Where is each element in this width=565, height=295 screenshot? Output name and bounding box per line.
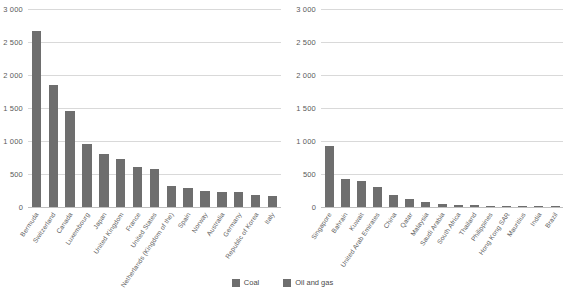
bar-slot (28, 9, 45, 207)
bar-thailand (470, 205, 479, 207)
bar-singapore (325, 146, 334, 207)
category-label-spain: Spain (176, 211, 192, 229)
bar-slot (418, 9, 434, 207)
coal-plot-area: 3 0002 5002 0001 5001 0005000 (28, 9, 281, 207)
bar-slot (95, 9, 112, 207)
legend-item[interactable]: Coal (232, 278, 259, 287)
category-label-singapore: Singapore (310, 211, 333, 241)
bar-spain (183, 188, 192, 207)
bar-slot (180, 9, 197, 207)
bar-slot (129, 9, 146, 207)
category-label-slot: Spain (180, 209, 197, 275)
bar-slot (247, 9, 264, 207)
bar-south-africa (454, 205, 463, 207)
coal-category-labels: BermudaSwitzerlandCanadaLuxembourgJapanU… (28, 209, 281, 275)
category-label-india: India (529, 211, 543, 227)
category-label-slot: Italy (264, 209, 281, 275)
oil-and-gas-plot-area: 3 0002 5002 0001 5001 0005000 (321, 9, 563, 207)
category-label-slot: Singapore (321, 209, 337, 275)
bar-philippines (486, 206, 495, 207)
bar-slot (386, 9, 402, 207)
legend-label: Oil and gas (295, 278, 333, 287)
oil-and-gas-y-tick-label: 1 000 (296, 136, 316, 145)
bar-switzerland (49, 85, 58, 207)
bar-slot (146, 9, 163, 207)
bar-slot (62, 9, 79, 207)
legend-label: Coal (244, 278, 259, 287)
category-label-slot: Qatar (402, 209, 418, 275)
category-label-slot: India (531, 209, 547, 275)
category-label-slot: Luxembourg (79, 209, 96, 275)
bar-brazil (551, 206, 560, 207)
bar-hong-kong-sar (502, 206, 511, 207)
bar-slot (402, 9, 418, 207)
bar-france (133, 167, 142, 207)
category-label-italy: Italy (263, 211, 276, 225)
bar-united-states (150, 169, 159, 207)
coal-gridline-0: 0 (28, 207, 281, 208)
bar-slot (353, 9, 369, 207)
bar-slot (321, 9, 337, 207)
bar-germany (234, 192, 243, 207)
category-label-slot: Switzerland (45, 209, 62, 275)
coal-chart-panel: 3 0002 5002 0001 5001 0005000 BermudaSwi… (0, 0, 285, 275)
bar-kuwait (357, 181, 366, 207)
category-label-slot: China (386, 209, 402, 275)
coal-y-tick-label: 2 000 (3, 70, 23, 79)
coal-y-tick-label: 500 (10, 170, 23, 179)
bar-netherlands-kingdom-of-the (167, 186, 176, 207)
bar-mauritius (518, 206, 527, 207)
oil-and-gas-y-tick-label: 500 (303, 170, 316, 179)
bar-slot (434, 9, 450, 207)
coal-swatch (232, 279, 240, 287)
bar-slot (482, 9, 498, 207)
legend-item[interactable]: Oil and gas (283, 278, 333, 287)
category-label-slot: Norway (197, 209, 214, 275)
bar-australia (217, 192, 226, 208)
bar-slot (213, 9, 230, 207)
bar-united-arab-emirates (373, 187, 382, 207)
bar-slot (112, 9, 129, 207)
bar-slot (450, 9, 466, 207)
category-label-slot: South Africa (450, 209, 466, 275)
category-label-slot: Republic of Korea (247, 209, 264, 275)
bar-slot (369, 9, 385, 207)
category-label-slot: Australia (213, 209, 230, 275)
coal-y-tick-label: 3 000 (3, 5, 23, 14)
category-label-slot: United Arab Emirates (369, 209, 385, 275)
oil-and-gas-y-tick-label: 3 000 (296, 5, 316, 14)
oil-and-gas-swatch (283, 279, 291, 287)
bar-slot (466, 9, 482, 207)
bar-slot (531, 9, 547, 207)
oil-and-gas-y-tick-label: 0 (312, 203, 316, 212)
oil-and-gas-category-labels: SingaporeBahrainKuwaitUnited Arab Emirat… (321, 209, 563, 275)
category-label-slot: Hong Kong SAR (499, 209, 515, 275)
bar-china (389, 195, 398, 207)
coal-y-tick-label: 1 500 (3, 104, 23, 113)
bar-luxembourg (82, 144, 91, 207)
bar-norway (200, 191, 209, 207)
bar-slot (337, 9, 353, 207)
bar-qatar (405, 199, 414, 207)
bar-slot (547, 9, 563, 207)
coal-bars (28, 9, 281, 207)
coal-y-tick-label: 0 (19, 203, 23, 212)
oil-and-gas-y-tick-label: 2 500 (296, 37, 316, 46)
bar-bahrain (341, 179, 350, 207)
oil-and-gas-y-tick-label: 1 500 (296, 104, 316, 113)
bar-slot (499, 9, 515, 207)
category-label-slot: Netherlands (Kingdom of the) (163, 209, 180, 275)
bar-japan (99, 154, 108, 207)
bar-slot (45, 9, 62, 207)
oil-and-gas-chart-panel: 3 0002 5002 0001 5001 0005000 SingaporeB… (288, 0, 565, 275)
bar-india (534, 206, 543, 207)
bar-slot (163, 9, 180, 207)
bar-italy (268, 196, 277, 207)
legend: CoalOil and gas (0, 278, 565, 287)
coal-y-tick-label: 1 000 (3, 136, 23, 145)
bar-slot (264, 9, 281, 207)
oil-and-gas-y-tick-label: 2 000 (296, 70, 316, 79)
bar-malaysia (421, 202, 430, 207)
bar-republic-of-korea (251, 195, 260, 207)
category-label-slot: Mauritius (515, 209, 531, 275)
